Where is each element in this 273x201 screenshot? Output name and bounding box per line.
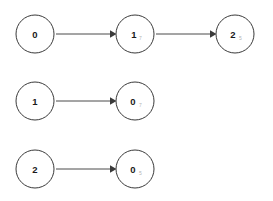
edge-n0-n1[interactable] xyxy=(56,30,117,38)
node-label: 1 xyxy=(131,29,137,40)
graph-node[interactable]: 1 7 xyxy=(116,15,154,53)
diagram-root: 0 1 7 2 5 1 0 7 xyxy=(0,0,273,201)
node-group: 0 1 7 2 5 1 0 7 xyxy=(16,15,254,188)
node-subscript: 5 xyxy=(239,35,242,41)
node-label: 0 xyxy=(32,29,37,40)
node-subscript: 7 xyxy=(139,35,142,41)
graph-node[interactable]: 0 5 xyxy=(116,150,154,188)
graph-node[interactable]: 0 7 xyxy=(116,82,154,120)
node-label: 0 xyxy=(130,164,135,175)
node-label: 1 xyxy=(32,96,38,107)
edge-n3-n4[interactable] xyxy=(56,97,117,105)
graph-node[interactable]: 2 5 xyxy=(216,15,254,53)
node-label: 2 xyxy=(230,29,235,40)
node-subscript: 7 xyxy=(139,102,142,108)
graph-node[interactable]: 2 xyxy=(16,150,54,188)
node-label: 2 xyxy=(32,164,37,175)
edge-n1-n2[interactable] xyxy=(156,30,217,38)
edge-n5-n6[interactable] xyxy=(56,165,117,173)
node-label: 0 xyxy=(130,96,135,107)
graph-canvas: 0 1 7 2 5 1 0 7 xyxy=(0,0,273,201)
graph-node[interactable]: 1 xyxy=(16,82,54,120)
graph-node[interactable]: 0 xyxy=(16,15,54,53)
node-subscript: 5 xyxy=(139,170,142,176)
